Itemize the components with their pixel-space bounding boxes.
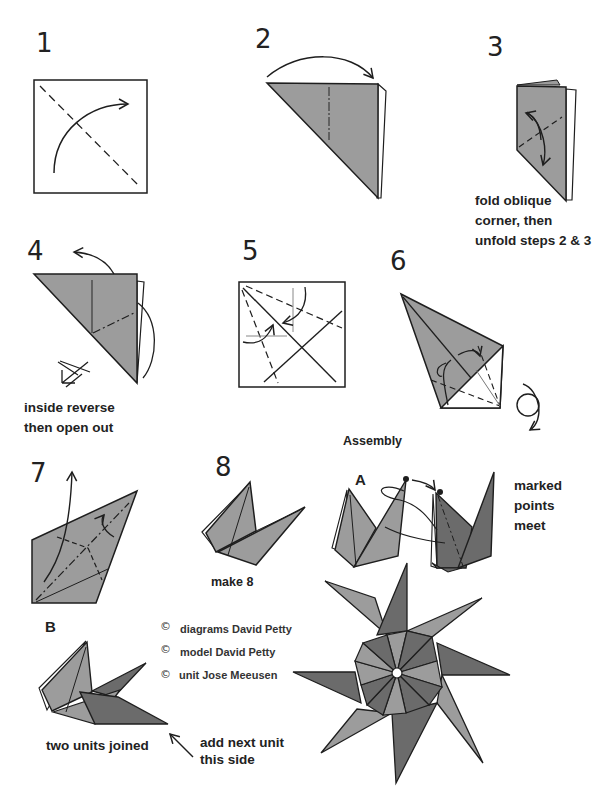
copyright-icon: ©	[160, 643, 171, 656]
step-number-6: 6	[390, 246, 407, 276]
assembly-b-arrow-note-line: this side	[200, 751, 284, 768]
assembly-a-left-unit	[332, 476, 409, 567]
step3-caption-line: fold oblique	[475, 191, 591, 211]
step3-caption-line: corner, then	[475, 211, 591, 231]
assembly-a-note: marked points meet	[514, 476, 562, 536]
step-number-8: 8	[215, 452, 232, 482]
assembly-b-arrow-note: add next unit this side	[200, 734, 284, 768]
step-number-1: 1	[36, 28, 53, 58]
assembly-a-note-line: marked	[514, 476, 562, 496]
assembly-a-label: A	[355, 470, 366, 490]
step-number-4: 4	[27, 236, 44, 266]
step7-shape	[32, 472, 137, 603]
step4-triangle	[34, 252, 154, 387]
step6-kite	[401, 294, 539, 430]
final-star-model	[293, 563, 510, 783]
assembly-a-note-line: points	[514, 496, 562, 516]
step8-unit	[202, 482, 305, 565]
credit-diagrams: diagrams David Petty	[180, 623, 292, 635]
step3-caption: fold oblique corner, then unfold steps 2…	[475, 191, 591, 251]
assembly-b-label: B	[45, 617, 56, 637]
copyright-icon: ©	[160, 620, 171, 633]
step5-crease-pattern	[239, 282, 345, 387]
step-number-7: 7	[30, 458, 47, 488]
step4-caption-line: inside reverse	[24, 398, 115, 418]
assembly-title: Assembly	[343, 431, 402, 451]
assembly-b-caption: two units joined	[46, 736, 149, 756]
credit-unit: unit Jose Meeusen	[179, 669, 277, 681]
step-number-5: 5	[242, 236, 259, 266]
assembly-a-note-line: meet	[514, 516, 562, 536]
step4-caption: inside reverse then open out	[24, 398, 115, 438]
step3-caption-line: unfold steps 2 & 3	[475, 231, 591, 251]
step2-triangle	[267, 57, 386, 198]
assembly-b-arrow-note-line: add next unit	[200, 734, 284, 751]
step-number-2: 2	[255, 24, 272, 54]
step-number-3: 3	[487, 32, 504, 62]
credit-model: model David Petty	[180, 646, 275, 658]
step3-strip	[517, 80, 576, 201]
step4-caption-line: then open out	[24, 418, 115, 438]
copyright-icon: ©	[160, 668, 171, 681]
step8-caption: make 8	[211, 572, 253, 592]
step1-square	[34, 80, 147, 193]
